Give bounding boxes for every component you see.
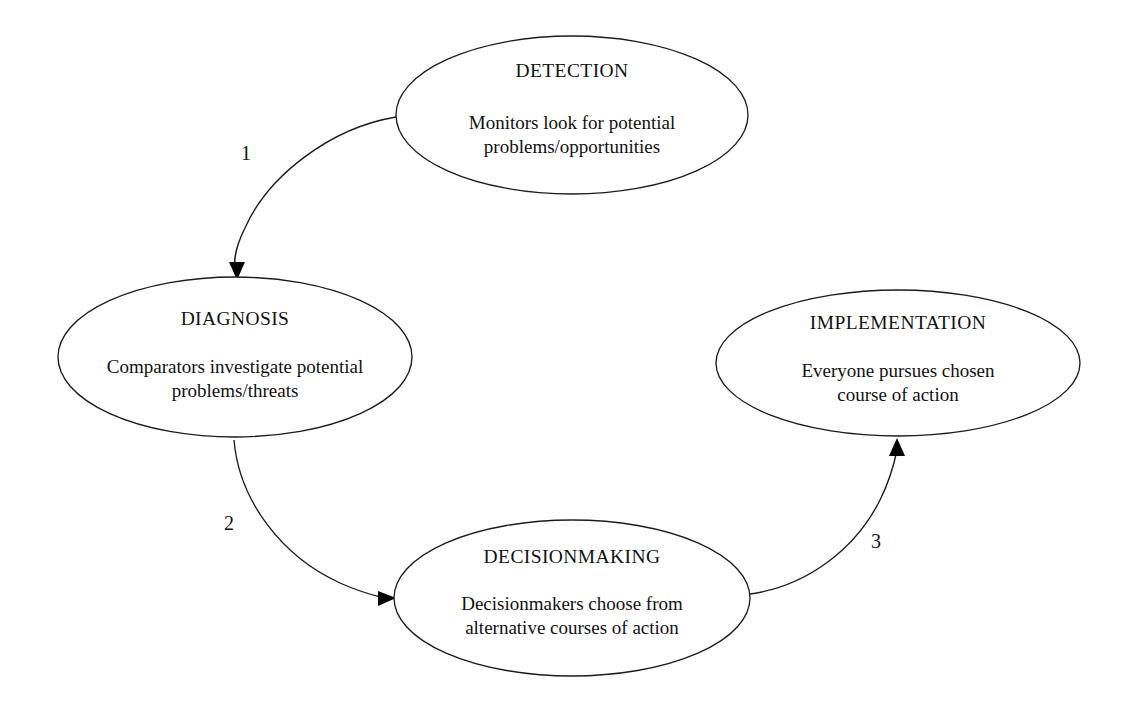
edge-2-path <box>234 440 384 598</box>
decisionmaking-body-line-1: Decisionmakers choose from <box>461 593 683 614</box>
diagnosis-title: DIAGNOSIS <box>181 308 290 329</box>
detection-body-line-2: problems/opportunities <box>484 136 660 157</box>
node-detection[interactable]: DETECTION Monitors look for potential pr… <box>396 36 748 194</box>
edge-3-path <box>750 450 897 594</box>
flow-diagram: 1 2 3 DETECTION Monitors look for potent… <box>0 0 1126 704</box>
edge-3-label: 3 <box>871 530 881 552</box>
diagram-canvas: 1 2 3 DETECTION Monitors look for potent… <box>0 0 1126 704</box>
edge-2-label: 2 <box>224 512 234 534</box>
detection-body-line-1: Monitors look for potential <box>469 112 675 133</box>
edge-diagnosis-to-decisionmaking: 2 <box>224 440 396 606</box>
node-implementation[interactable]: IMPLEMENTATION Everyone pursues chosen c… <box>716 290 1080 436</box>
node-decisionmaking[interactable]: DECISIONMAKING Decisionmakers choose fro… <box>394 520 750 676</box>
edge-decisionmaking-to-implementation: 3 <box>750 438 905 594</box>
detection-title: DETECTION <box>516 60 629 81</box>
decisionmaking-title: DECISIONMAKING <box>484 546 661 567</box>
edge-detection-to-diagnosis: 1 <box>229 117 396 280</box>
implementation-body-line-2: course of action <box>837 384 959 405</box>
edge-2-arrowhead <box>378 591 396 606</box>
edge-1-path <box>235 117 396 272</box>
implementation-body-line-1: Everyone pursues chosen <box>801 360 995 381</box>
edge-3-arrowhead <box>889 438 905 456</box>
node-diagnosis[interactable]: DIAGNOSIS Comparators investigate potent… <box>58 277 412 437</box>
implementation-title: IMPLEMENTATION <box>810 312 986 333</box>
diagnosis-body-line-2: problems/threats <box>172 380 299 401</box>
decisionmaking-body-line-2: alternative courses of action <box>465 617 679 638</box>
diagnosis-body-line-1: Comparators investigate potential <box>107 356 363 377</box>
edge-1-label: 1 <box>241 142 251 164</box>
